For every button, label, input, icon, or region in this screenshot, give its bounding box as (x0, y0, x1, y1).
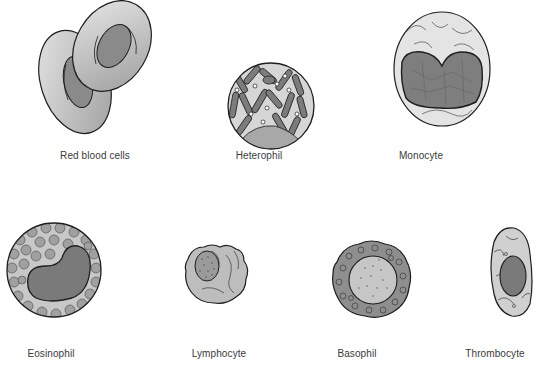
heterophil-illustration (227, 62, 315, 150)
lymphocyte-illustration (182, 241, 252, 307)
monocyte-illustration (392, 10, 492, 128)
label-red-blood-cells: Red blood cells (60, 150, 130, 161)
basophil-illustration (329, 238, 413, 320)
label-basophil: Basophil (337, 348, 376, 359)
eosinophil-illustration (6, 222, 102, 318)
label-heterophil: Heterophil (236, 150, 283, 161)
thrombocyte-illustration (486, 224, 536, 320)
red-blood-cells-illustration (30, 0, 160, 135)
label-lymphocyte: Lymphocyte (192, 348, 247, 359)
label-monocyte: Monocyte (399, 150, 443, 161)
label-thrombocyte: Thrombocyte (465, 348, 524, 359)
label-eosinophil: Eosinophil (27, 348, 74, 359)
